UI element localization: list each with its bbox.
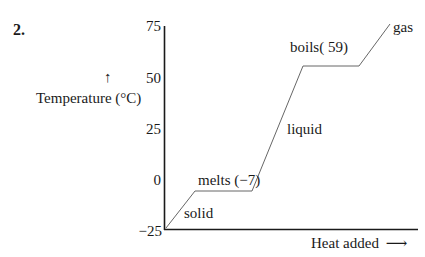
heating-curve — [166, 24, 390, 228]
right-arrow-icon: ⟶ — [386, 235, 408, 251]
x-axis-label-text: Heat added — [311, 235, 379, 251]
annotation-boils: boils( 59) — [290, 40, 348, 55]
annotation-liquid: liquid — [287, 122, 322, 137]
x-axis-label: Heat added ⟶ — [311, 236, 407, 251]
annotation-gas: gas — [393, 20, 413, 35]
annotation-melts: melts (−7) — [198, 173, 260, 188]
annotation-solid: solid — [184, 206, 213, 221]
